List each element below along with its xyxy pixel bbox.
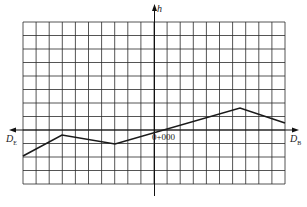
- h-axis-label: h: [157, 3, 162, 14]
- origin-label: 0+000: [152, 132, 175, 142]
- grid-diagram: [0, 0, 307, 207]
- left-axis-label: DE: [6, 133, 17, 146]
- right-axis-label: DB: [290, 133, 301, 146]
